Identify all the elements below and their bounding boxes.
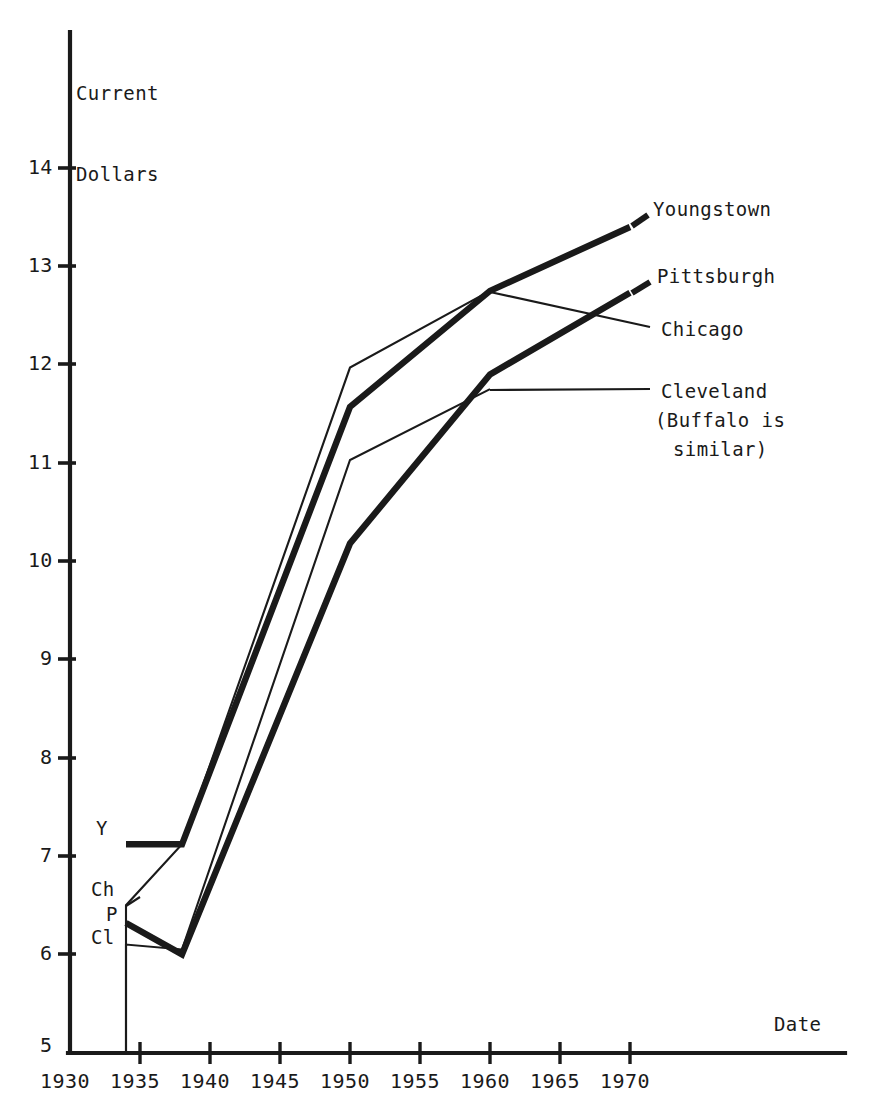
y-tick-label-5: 5 [40,1032,52,1058]
y-tick-label-14: 14 [28,154,52,180]
leader-line-youngstown [632,215,648,226]
y-tick-label-10: 10 [28,547,52,573]
series-line-pittsburgh [126,293,630,955]
series-label-cleveland-note-line1: (Buffalo is [655,408,785,433]
y-axis-title-line2: Dollars [76,161,159,188]
series-short-label-chicago: Ch [91,877,114,902]
y-axis-title: Current Dollars [76,26,159,242]
y-tick-label-9: 9 [40,645,52,671]
series-short-label-cleveland: Cl [91,925,114,950]
axis-lines [68,32,845,1053]
x-tick-label-1960: 1960 [460,1068,510,1094]
x-axis-title: Date [774,1012,821,1037]
x-tick-label-1955: 1955 [390,1068,440,1094]
y-tick-label-8: 8 [40,744,52,770]
y-axis-ticks [58,168,76,954]
series-label-cleveland: Cleveland [661,379,768,404]
x-tick-label-1930: 1930 [40,1068,90,1094]
series-label-pittsburgh: Pittsburgh [657,264,775,289]
leader-line-cleveland [490,389,650,390]
series-short-label-youngstown: Y [96,816,108,841]
y-tick-label-7: 7 [40,842,52,868]
series-short-label-pittsburgh: P [106,902,118,927]
y-tick-label-6: 6 [40,940,52,966]
x-tick-label-1965: 1965 [530,1068,580,1094]
x-tick-label-1950: 1950 [320,1068,370,1094]
line-chart: Current Dollars 14 13 12 11 10 9 8 7 6 5… [0,0,871,1113]
y-tick-label-12: 12 [28,350,52,376]
series-label-chicago: Chicago [661,317,744,342]
x-tick-label-1940: 1940 [180,1068,230,1094]
y-axis-title-line1: Current [76,80,159,107]
series-label-cleveland-note-line2: similar) [673,437,768,462]
x-tick-label-1970: 1970 [600,1068,650,1094]
x-tick-label-1935: 1935 [110,1068,160,1094]
series-label-youngstown: Youngstown [653,197,771,222]
y-tick-label-13: 13 [28,252,52,278]
x-tick-label-1945: 1945 [250,1068,300,1094]
series-line-youngstown [126,227,630,844]
y-tick-label-11: 11 [28,449,52,475]
leader-line-pittsburgh [632,282,650,293]
series-line-chicago [126,291,490,1053]
